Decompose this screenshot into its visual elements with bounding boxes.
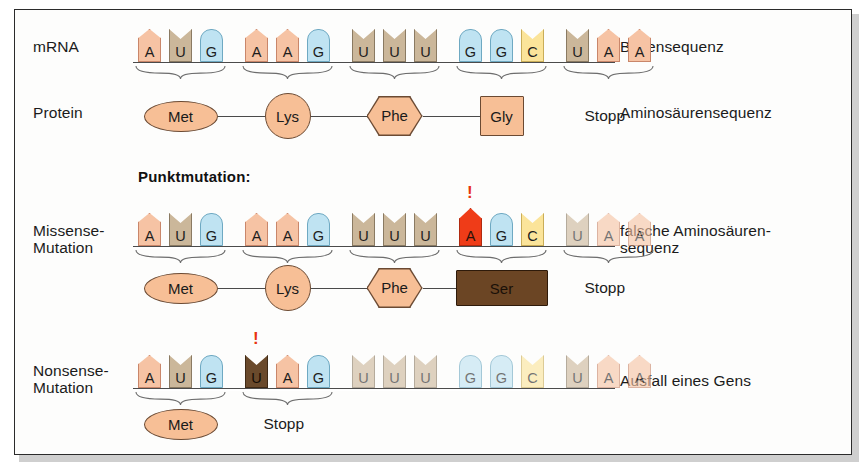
base-normal-5: G — [307, 29, 330, 62]
mrna-strand-normal — [133, 62, 615, 64]
amino-acid-nonsense-met: Met — [144, 409, 218, 440]
codon-brace-nonsense-1 — [242, 392, 333, 405]
peptide-bond-normal-2 — [423, 116, 480, 117]
base-track-normal: AUGAAGUUUGGCUAA — [138, 22, 608, 62]
row-label-mrna: mRNA — [33, 38, 79, 55]
base-nonsense-10: G — [490, 355, 513, 388]
base-normal-0: A — [138, 29, 161, 62]
peptide-bond-normal-1 — [311, 116, 367, 117]
base-normal-3: A — [245, 29, 268, 62]
base-normal-2: G — [200, 29, 223, 62]
stop-label-missense: Stopp — [585, 279, 626, 297]
base-missense-9-mutated: A — [459, 208, 482, 246]
amino-acid-normal-gly: Gly — [480, 96, 524, 136]
peptide-bond-missense-1 — [311, 288, 367, 289]
base-nonsense-5: G — [307, 355, 330, 388]
section-title-punktmutation: Punktmutation: — [138, 168, 251, 185]
base-normal-1: U — [169, 29, 192, 62]
mutation-marker-nonsense: ! — [253, 330, 259, 347]
row-label-missense: Missense- Mutation — [33, 222, 105, 256]
base-missense-8: U — [414, 213, 437, 246]
codon-brace-missense-4 — [563, 250, 654, 263]
base-missense-0: A — [138, 213, 161, 246]
base-missense-2: G — [200, 213, 223, 246]
figure-root: mRNA Protein Basensequenz Aminosäurenseq… — [0, 0, 868, 471]
base-nonsense-11: C — [521, 355, 544, 388]
base-nonsense-3-mutated: U — [245, 355, 268, 388]
base-missense-3: A — [245, 213, 268, 246]
base-missense-1: U — [169, 213, 192, 246]
codon-brace-normal-4 — [563, 66, 654, 79]
base-normal-12: U — [566, 29, 589, 62]
codon-brace-nonsense-0 — [135, 392, 226, 405]
base-normal-7: U — [383, 29, 406, 62]
base-normal-10: G — [490, 29, 513, 62]
codon-brace-normal-0 — [135, 66, 226, 79]
base-nonsense-4: A — [276, 355, 299, 388]
right-label-aminosaeurensequenz: Aminosäurensequenz — [620, 104, 772, 121]
stop-label-normal: Stopp — [585, 107, 626, 125]
amino-acid-normal-lys: Lys — [265, 93, 311, 139]
base-nonsense-9: G — [459, 355, 482, 388]
base-missense-7: U — [383, 213, 406, 246]
codon-brace-missense-0 — [135, 250, 226, 263]
amino-acid-missense-met: Met — [144, 273, 218, 304]
base-nonsense-2: G — [200, 355, 223, 388]
base-nonsense-8: U — [414, 355, 437, 388]
base-normal-11: C — [521, 29, 544, 62]
base-missense-11: C — [521, 213, 544, 246]
base-normal-8: U — [414, 29, 437, 62]
row-label-nonsense: Nonsense- Mutation — [33, 362, 109, 396]
mrna-strand-nonsense — [133, 388, 615, 390]
codon-brace-missense-3 — [456, 250, 547, 263]
base-nonsense-1: U — [169, 355, 192, 388]
base-missense-12: U — [566, 213, 589, 246]
peptide-bond-missense-0 — [218, 288, 265, 289]
base-nonsense-7: U — [383, 355, 406, 388]
base-nonsense-0: A — [138, 355, 161, 388]
row-label-protein: Protein — [33, 104, 83, 121]
codon-brace-normal-1 — [242, 66, 333, 79]
base-missense-6: U — [352, 213, 375, 246]
base-missense-10: G — [490, 213, 513, 246]
codon-brace-missense-1 — [242, 250, 333, 263]
amino-acid-missense-ser: Ser — [456, 270, 548, 306]
codon-brace-normal-2 — [349, 66, 440, 79]
mutation-marker-missense: ! — [467, 184, 473, 201]
base-missense-4: A — [276, 213, 299, 246]
amino-acid-missense-lys: Lys — [265, 265, 311, 311]
mrna-strand-missense — [133, 246, 615, 248]
codon-brace-missense-2 — [349, 250, 440, 263]
amino-acid-normal-met: Met — [144, 101, 218, 132]
base-missense-5: G — [307, 213, 330, 246]
base-track-nonsense: AUGUAGUUUGGCUAA — [138, 348, 608, 388]
base-nonsense-6: U — [352, 355, 375, 388]
base-normal-6: U — [352, 29, 375, 62]
stop-label-nonsense: Stopp — [264, 415, 305, 433]
base-track-missense: AUGAAGUUUAGCUAA — [138, 206, 608, 246]
base-nonsense-12: U — [566, 355, 589, 388]
peptide-bond-missense-2 — [423, 288, 456, 289]
peptide-bond-normal-0 — [218, 116, 265, 117]
codon-brace-normal-3 — [456, 66, 547, 79]
base-normal-4: A — [276, 29, 299, 62]
base-normal-9: G — [459, 29, 482, 62]
